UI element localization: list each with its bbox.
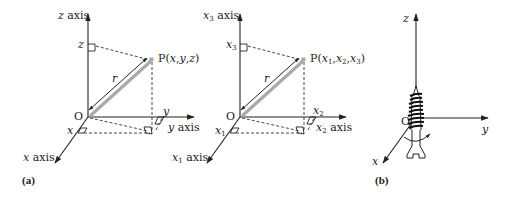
panel-a-cartesian-x1x2x3: x3 axis x3 P(x1,x2,x3) r O x2 x2 axis x1… [172, 9, 365, 165]
z-axis-label: z axis [57, 9, 90, 22]
panel-b-right-hand-screw: z O y x (b) [372, 12, 489, 187]
point-p-marker [150, 58, 154, 62]
x-axis-label: x [372, 155, 379, 168]
y-axis-label: y axis [167, 121, 200, 134]
x2-tick-label: x2 [313, 104, 324, 118]
r-length-arrow [89, 58, 147, 110]
x3-right-angle-marker [240, 44, 247, 51]
x-tick-label: x [67, 124, 74, 137]
z-axis-label: z [402, 12, 409, 25]
coordinate-systems-figure: z axis z P(x,y,z) r O y y axis x x axis … [0, 0, 511, 200]
origin-label: O [226, 110, 235, 123]
panel-label-a: (a) [22, 174, 35, 187]
y-tick-label: y [162, 105, 170, 118]
origin-label: O [74, 110, 83, 123]
origin-to-foot-line [90, 118, 148, 131]
z-tick-label: z [77, 38, 84, 51]
origin-label: O [401, 115, 410, 128]
x3-axis-label: x3 axis [203, 9, 239, 23]
r-length-arrow [241, 58, 299, 110]
x3-tick-label: x3 [226, 38, 237, 52]
x2-axis-label: x2 axis [316, 121, 352, 135]
z-right-angle-marker [88, 44, 95, 51]
point-p-label: P(x1,x2,x3) [310, 52, 365, 66]
y-axis-label: y [481, 123, 489, 136]
z-projection-line [96, 46, 150, 60]
x1-axis-label: x1 axis [172, 151, 208, 165]
x3-projection-line [248, 46, 302, 60]
x-axis-label: x axis [23, 151, 55, 164]
point-p-marker [302, 58, 306, 62]
point-p-label: P(x,y,z) [158, 52, 199, 65]
x1-axis [207, 117, 240, 163]
r-label: r [264, 72, 270, 85]
r-vector [90, 61, 151, 116]
origin-to-foot-line [242, 118, 300, 131]
x1-tick-label: x1 [215, 124, 226, 138]
panel-label-b: (b) [375, 174, 389, 187]
r-label: r [112, 72, 118, 85]
r-vector [242, 61, 303, 116]
